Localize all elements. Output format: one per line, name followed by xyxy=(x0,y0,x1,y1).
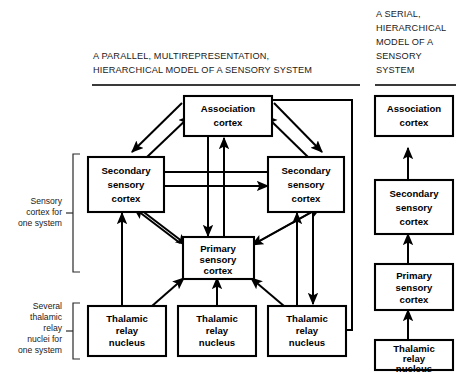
box-secondary-right-label-line-3: cortex xyxy=(292,193,321,204)
right-association-label-line-1: Association xyxy=(387,103,442,114)
right-secondary-label-line-1: Secondary xyxy=(389,188,439,199)
box-thalamic-mid-label-line-1: Thalamic xyxy=(196,313,238,324)
bracket-sensory-cortex-label-line-1: Sensory xyxy=(30,196,62,206)
left-panel-title-line-2: HIERARCHICAL MODEL OF A SENSORY SYSTEM xyxy=(93,65,312,75)
right-secondary-label-line-3: cortex xyxy=(400,216,429,227)
box-thalamic-right-label-line-2: relay xyxy=(296,325,319,336)
bracket-thalamic-label-line-5: one system xyxy=(18,345,62,355)
box-primary-label-line-2: sensory xyxy=(200,254,237,265)
right-panel-title-line-3: MODEL OF A xyxy=(376,37,434,47)
right-association-label-line-2: cortex xyxy=(400,117,429,128)
box-thalamic-relay-nucleus-right-panel: Thalamic Thalamic relay nucleus xyxy=(375,340,453,374)
bracket-thalamic-label-line-4: nuclei for xyxy=(27,334,62,344)
box-thalamic-right-label-line-3: nucleus xyxy=(289,337,325,348)
bracket-sensory-cortex-label-line-2: cortex for xyxy=(26,207,62,217)
box-secondary-sensory-cortex-right-panel: Secondary sensory cortex xyxy=(375,180,453,234)
right-panel-title-line-1: A SERIAL, xyxy=(376,9,421,19)
box-secondary-left-label-line-1: Secondary xyxy=(101,165,151,176)
bracket-thalamic-label-line-1: Several xyxy=(33,301,62,311)
left-panel-title-line-1: A PARALLEL, MULTIREPRESENTATION, xyxy=(93,51,269,61)
box-thalamic-left-label-line-3: nucleus xyxy=(109,337,145,348)
box-secondary-right-label-line-2: sensory xyxy=(288,179,325,190)
box-thalamic-mid-label-line-3: nucleus xyxy=(199,337,235,348)
right-primary-label-line-2: sensory xyxy=(396,282,433,293)
box-thalamic-left-label-line-1: Thalamic xyxy=(106,313,148,324)
box-thalamic-relay-nucleus-middle: Thalamic relay nucleus xyxy=(178,306,256,356)
bracket-thalamic-label-line-3: relay xyxy=(43,323,62,333)
box-primary-label-line-3: cortex xyxy=(204,265,233,276)
arrow-thalamic-right-to-primary xyxy=(251,278,284,306)
box-secondary-sensory-cortex-left: Secondary sensory cortex xyxy=(88,157,164,212)
arrow-association-to-secondary-right xyxy=(274,103,322,152)
right-thalamic-label-line-3: nucleus xyxy=(396,363,432,374)
box-primary-label-line-1: Primary xyxy=(200,243,236,254)
box-thalamic-relay-nucleus-left: Thalamic relay nucleus xyxy=(88,306,166,356)
box-secondary-left-label-line-2: sensory xyxy=(108,179,145,190)
arrow-secondary-left-to-primary xyxy=(141,210,187,245)
box-secondary-sensory-cortex-right: Secondary sensory cortex xyxy=(268,157,344,212)
box-association-cortex-left-panel: Association cortex xyxy=(184,96,272,136)
right-secondary-label-line-2: sensory xyxy=(396,202,433,213)
right-panel-title-line-2: HIERARCHICAL xyxy=(376,23,446,33)
box-association-cortex-label-line-2: cortex xyxy=(214,117,243,128)
bracket-sensory-cortex-label-line-3: one system xyxy=(18,218,62,228)
box-thalamic-right-label-line-1: Thalamic xyxy=(286,313,328,324)
arrow-association-to-secondary-left xyxy=(132,103,182,152)
box-primary-sensory-cortex-right-panel: Primary sensory cortex xyxy=(375,264,453,310)
box-association-cortex-right-panel: Association cortex xyxy=(375,96,453,136)
bracket-thalamic-label-line-2: thalamic xyxy=(30,312,63,322)
box-secondary-left-label-line-3: cortex xyxy=(112,193,141,204)
box-thalamic-relay-nucleus-right: Thalamic relay nucleus xyxy=(268,306,346,356)
right-panel-title-line-4: SENSORY xyxy=(376,51,422,61)
arrow-thalamic-left-to-primary xyxy=(152,278,184,306)
box-primary-sensory-cortex-left-panel: Primary sensory cortex xyxy=(183,237,254,279)
bracket-sensory-cortex xyxy=(66,154,80,272)
box-secondary-right-label-line-1: Secondary xyxy=(281,165,331,176)
arrow-primary-to-secondary-left xyxy=(134,208,180,243)
figure-root: A PARALLEL, MULTIREPRESENTATION, HIERARC… xyxy=(0,0,464,374)
sensory-system-diagram: A PARALLEL, MULTIREPRESENTATION, HIERARC… xyxy=(0,0,464,374)
box-thalamic-left-label-line-2: relay xyxy=(116,325,139,336)
right-primary-label-line-1: Primary xyxy=(396,270,432,281)
bracket-thalamic-nuclei xyxy=(66,303,80,359)
box-thalamic-mid-label-line-2: relay xyxy=(206,325,229,336)
right-primary-label-line-3: cortex xyxy=(400,294,429,305)
box-association-cortex-label-line-1: Association xyxy=(201,103,256,114)
right-panel-title-line-5: SYSTEM xyxy=(376,65,415,75)
